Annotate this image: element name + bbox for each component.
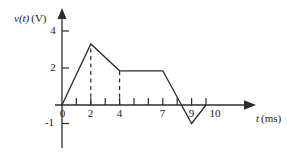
- x-axis-title-unit: (ms): [261, 112, 281, 124]
- y-axis-title-var: v(t): [14, 12, 29, 24]
- x-tick-label-0: 0: [57, 107, 68, 119]
- x-axis-arrowhead: [244, 100, 256, 109]
- x-axis-title-var: t: [256, 112, 259, 124]
- waveform-trace: [62, 44, 206, 124]
- waveform-figure: v(t)(V) t(ms) 4 2 -1 0 2 4 7 9 10: [0, 0, 287, 153]
- x-tick-label-9: 9: [186, 107, 197, 119]
- y-tick-label-2: 2: [48, 61, 58, 73]
- x-tick-label-10: 10: [207, 107, 223, 119]
- y-axis-title-unit: (V): [31, 12, 46, 24]
- x-tick-label-2: 2: [85, 107, 96, 119]
- y-tick-label-minus1: -1: [41, 116, 58, 128]
- x-tick-label-7: 7: [157, 107, 168, 119]
- y-tick-label-4: 4: [48, 24, 58, 36]
- y-axis-arrowhead: [58, 8, 67, 19]
- x-axis-title: t(ms): [256, 112, 281, 124]
- y-axis-title: v(t)(V): [14, 12, 47, 24]
- x-axis-ticks: [76, 98, 206, 105]
- x-tick-label-4: 4: [114, 107, 125, 119]
